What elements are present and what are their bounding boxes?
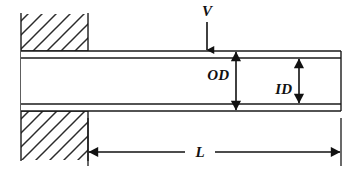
wall-upper-hatch-block bbox=[21, 14, 88, 51]
inner-diameter-label: ID bbox=[274, 81, 292, 97]
tube-cantilever-diagram: V OD ID L bbox=[0, 0, 354, 173]
length-dimension-group bbox=[88, 118, 341, 166]
diagram-canvas: V OD ID L bbox=[0, 0, 354, 173]
tube-body bbox=[21, 51, 341, 111]
wall-lower-hatch-block bbox=[21, 111, 88, 160]
outer-diameter-label: OD bbox=[207, 67, 229, 83]
tube-interior-fill bbox=[21, 51, 341, 111]
load-label: V bbox=[202, 3, 214, 19]
length-label: L bbox=[194, 144, 204, 160]
